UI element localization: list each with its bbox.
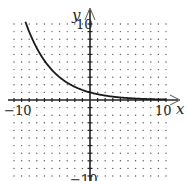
grid-dot	[44, 168, 45, 169]
grid-dot	[59, 84, 60, 85]
grid-dot	[105, 175, 106, 176]
grid-dot	[74, 122, 75, 123]
grid-dot	[51, 61, 52, 62]
grid-dot	[158, 137, 159, 138]
grid-dot	[51, 39, 52, 40]
x-min-tick-label: −10	[4, 103, 31, 118]
grid-dot	[105, 31, 106, 32]
grid-dot	[150, 160, 151, 161]
grid-dot	[51, 168, 52, 169]
grid-dot	[97, 107, 98, 108]
grid-dot	[13, 54, 14, 55]
grid-dot	[112, 160, 113, 161]
grid-dot	[67, 23, 68, 24]
grid-dot	[120, 168, 121, 169]
grid-dot	[127, 115, 128, 116]
grid-dot	[67, 92, 68, 93]
grid-dot	[112, 168, 113, 169]
grid-dot	[127, 160, 128, 161]
grid-dot	[165, 130, 166, 131]
grid-dot	[29, 84, 30, 85]
grid-dot	[13, 39, 14, 40]
grid-dot	[135, 122, 136, 123]
grid-dot	[158, 61, 159, 62]
grid-dot	[135, 23, 136, 24]
grid-dot	[165, 39, 166, 40]
grid-dot	[21, 84, 22, 85]
grid-dot	[165, 175, 166, 176]
grid-dot	[135, 130, 136, 131]
grid-dot	[44, 92, 45, 93]
grid-dot	[143, 69, 144, 70]
grid-dot	[74, 145, 75, 146]
grid-dot	[74, 130, 75, 131]
grid-dot	[105, 23, 106, 24]
grid-dot	[143, 31, 144, 32]
grid-dot	[127, 54, 128, 55]
grid-dot	[120, 160, 121, 161]
grid-dot	[120, 145, 121, 146]
grid-dot	[150, 69, 151, 70]
grid-dot	[158, 168, 159, 169]
grid-dot	[127, 137, 128, 138]
grid-dot	[105, 107, 106, 108]
grid-dot	[158, 145, 159, 146]
grid-dot	[158, 46, 159, 47]
grid-dot	[165, 153, 166, 154]
grid-dot	[135, 61, 136, 62]
grid-dot	[82, 46, 83, 47]
grid-dot	[44, 23, 45, 24]
grid-dot	[29, 122, 30, 123]
grid-dot	[165, 122, 166, 123]
grid-dot	[74, 77, 75, 78]
grid-dot	[105, 153, 106, 154]
grid-dot	[74, 115, 75, 116]
grid-dot	[13, 46, 14, 47]
grid-dot	[135, 54, 136, 55]
grid-dot	[120, 61, 121, 62]
grid-dot	[59, 168, 60, 169]
grid-dot	[44, 145, 45, 146]
grid-dot	[150, 46, 151, 47]
grid-dot	[135, 160, 136, 161]
grid-dot	[59, 61, 60, 62]
grid-dot	[74, 107, 75, 108]
grid-dot	[127, 145, 128, 146]
grid-dot	[51, 107, 52, 108]
grid-dot	[97, 145, 98, 146]
grid-dot	[135, 69, 136, 70]
grid-dot	[143, 54, 144, 55]
grid-dot	[36, 130, 37, 131]
grid-dot	[112, 46, 113, 47]
grid-dot	[82, 107, 83, 108]
grid-dot	[120, 31, 121, 32]
grid-dot	[82, 39, 83, 40]
grid-dot	[165, 69, 166, 70]
grid-dot	[120, 84, 121, 85]
grid-dot	[82, 115, 83, 116]
grid-dot	[150, 39, 151, 40]
grid-dot	[165, 23, 166, 24]
grid-dot	[74, 46, 75, 47]
grid-dot	[51, 84, 52, 85]
grid-dot	[51, 122, 52, 123]
grid-dot	[97, 31, 98, 32]
grid-dot	[127, 46, 128, 47]
grid-dot	[59, 46, 60, 47]
grid-dot	[36, 69, 37, 70]
grid-dot	[21, 23, 22, 24]
grid-dot	[112, 61, 113, 62]
grid-dot	[51, 115, 52, 116]
grid-dot	[105, 115, 106, 116]
grid-dot	[158, 23, 159, 24]
grid-dot	[59, 92, 60, 93]
grid-dot	[135, 107, 136, 108]
grid-dot	[13, 122, 14, 123]
grid-dot	[13, 130, 14, 131]
grid-dot	[105, 61, 106, 62]
grid-dot	[112, 115, 113, 116]
grid-dot	[67, 54, 68, 55]
grid-dot	[82, 168, 83, 169]
grid-dot	[51, 137, 52, 138]
grid-dot	[59, 54, 60, 55]
